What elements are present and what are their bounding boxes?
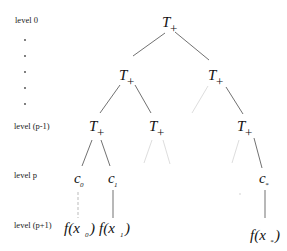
node-level-pm1-b: T + [149, 118, 164, 140]
svg-text:): ) [274, 227, 280, 244]
svg-text:+: + [245, 125, 252, 140]
svg-text:*: * [265, 181, 269, 189]
leaf-f-x0: f(x 0 ) [64, 220, 95, 239]
node-c0: c 0 [74, 170, 84, 189]
svg-text:0: 0 [85, 231, 89, 239]
svg-text:+: + [127, 74, 134, 89]
node-level1-right: T + [208, 67, 223, 89]
vertical-ellipsis [24, 39, 26, 105]
leaf-f-xstar: f(x * ) [250, 227, 280, 246]
node-level-pm1-a: T + [89, 118, 104, 140]
svg-text:f(x: f(x [250, 227, 266, 244]
svg-text:f(x: f(x [64, 220, 80, 237]
svg-text:0: 0 [80, 181, 84, 189]
level-0-label: level 0 [15, 15, 38, 25]
svg-text:*: * [270, 238, 274, 246]
svg-text:+: + [97, 125, 104, 140]
node-root: T + [162, 14, 177, 36]
svg-text:+: + [157, 125, 164, 140]
svg-text:): ) [124, 220, 130, 237]
level-p-plus-1-label: level (p+1) [14, 220, 52, 230]
svg-text:f(x: f(x [99, 220, 115, 237]
faint-edges [78, 86, 241, 218]
svg-text:+: + [216, 74, 223, 89]
svg-text:+: + [170, 21, 177, 36]
svg-text:1: 1 [114, 181, 118, 189]
level-p-label: level p [14, 170, 37, 180]
level-p-minus-1-label: level (p-1) [14, 121, 50, 131]
node-c1: c 1 [108, 170, 118, 189]
node-cstar: c * [259, 170, 269, 189]
node-level1-left: T + [119, 67, 134, 89]
leaf-f-x1: f(x 1 ) [99, 220, 130, 239]
svg-text:): ) [89, 220, 95, 237]
node-level-pm1-c: T + [237, 118, 252, 140]
tree-diagram: level 0 level (p-1) level p level (p+1) … [0, 0, 287, 251]
svg-text:1: 1 [120, 231, 124, 239]
